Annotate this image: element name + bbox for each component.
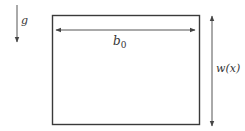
- width-label: b0: [113, 34, 127, 50]
- height-label: w(x): [216, 62, 240, 75]
- diagram-canvas: g b0 w(x): [0, 0, 245, 131]
- plate-rectangle: [53, 16, 200, 125]
- gravity-label: g: [21, 14, 28, 27]
